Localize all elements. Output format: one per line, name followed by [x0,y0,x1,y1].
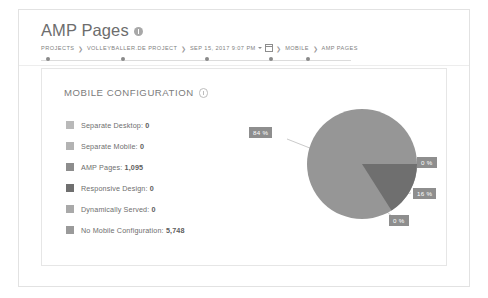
breadcrumb-mobile[interactable]: MOBILE [285,45,309,51]
breadcrumb-progress-track [41,56,351,64]
card-title: MOBILE CONFIGURATION [64,87,208,99]
progress-dot[interactable] [205,57,209,61]
legend-item-label: Responsive Design: 0 [81,184,154,193]
progress-dot[interactable] [269,57,273,61]
legend-swatch-icon [66,163,74,171]
progress-dot[interactable] [306,57,310,61]
page-title-text: AMP Pages [41,21,129,39]
breadcrumb-separator: ❯ [78,45,83,52]
legend-swatch-icon [66,205,74,213]
pie-chart: 84 % 0 % 16 % 0 % [247,109,447,264]
legend-separate-mobile[interactable]: Separate Mobile: 0 [66,136,251,156]
breadcrumb: PROJECTS ❯ VOLLEYBALLER.DE PROJECT ❯ SEP… [41,44,358,52]
breadcrumb-separator: ❯ [276,45,281,52]
legend-separate-desktop[interactable]: Separate Desktop: 0 [66,115,251,135]
legend-swatch-icon [66,121,74,129]
legend-responsive-design[interactable]: Responsive Design: 0 [66,178,251,198]
breadcrumb-projects[interactable]: PROJECTS [41,45,74,51]
progress-dot[interactable] [121,57,125,61]
legend-item-label: Dynamically Served: 0 [81,205,156,214]
legend-amp-pages[interactable]: AMP Pages: 1,095 [66,157,251,177]
progress-dot[interactable] [46,57,50,61]
page-frame: AMP Pages PROJECTS ❯ VOLLEYBALLER.DE PRO… [18,9,470,287]
page-header: AMP Pages PROJECTS ❯ VOLLEYBALLER.DE PRO… [19,10,469,66]
pie-label-84: 84 % [249,127,272,138]
legend-dynamically-served[interactable]: Dynamically Served: 0 [66,199,251,219]
legend-item-label: Separate Desktop: 0 [81,121,149,130]
mobile-configuration-card: MOBILE CONFIGURATION Separate Desktop: 0… [41,68,447,266]
breadcrumb-separator: ❯ [181,45,186,52]
page-title: AMP Pages [41,21,143,40]
breadcrumb-crawl-date[interactable]: SEP 15, 2017 9:07 PM [190,45,256,51]
breadcrumb-project[interactable]: VOLLEYBALLER.DE PROJECT [87,45,178,51]
legend-item-label: AMP Pages: 1,095 [81,163,143,172]
legend-swatch-icon [66,142,74,150]
legend-swatch-icon [66,226,74,234]
pie-label-16: 16 % [413,188,436,199]
pie-label-0-right: 0 % [417,157,437,168]
chevron-down-icon[interactable] [258,47,262,49]
breadcrumb-amp-pages[interactable]: AMP PAGES [321,45,357,51]
chart-legend: Separate Desktop: 0 Separate Mobile: 0 A… [66,115,251,241]
legend-no-mobile-configuration[interactable]: No Mobile Configuration: 5,748 [66,220,251,240]
calendar-icon[interactable] [265,44,273,52]
info-icon[interactable] [199,88,209,98]
progress-line [41,60,351,61]
legend-swatch-icon [66,184,74,192]
legend-item-label: Separate Mobile: 0 [81,142,144,151]
breadcrumb-separator: ❯ [313,45,318,52]
legend-item-label: No Mobile Configuration: 5,748 [81,226,185,235]
pie-chart-svg [247,109,447,264]
card-title-text: MOBILE CONFIGURATION [64,87,194,98]
info-icon[interactable] [134,27,143,36]
pie-label-0-bottom: 0 % [389,215,409,226]
